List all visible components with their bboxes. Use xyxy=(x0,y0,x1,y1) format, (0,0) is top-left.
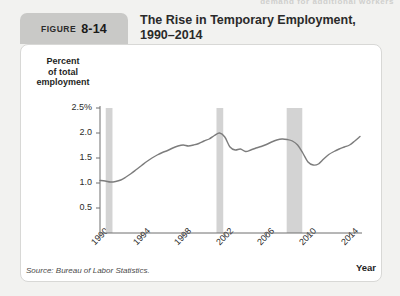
figure-title: The Rise in Temporary Employment, 1990–2… xyxy=(140,13,390,43)
figure-badge-word: FIGURE xyxy=(41,24,76,34)
x-axis-title: Year xyxy=(356,262,376,273)
y-axis-title-line-3: employment xyxy=(26,77,100,88)
figure-badge: FIGURE 8-14 xyxy=(20,13,128,44)
figure-title-line-1: The Rise in Temporary Employment, xyxy=(140,13,390,28)
y-tick-label: 1.0 xyxy=(50,177,92,187)
figure-title-line-2: 1990–2014 xyxy=(140,28,390,43)
y-axis-title-line-1: Percent xyxy=(26,56,100,67)
figure-badge-number: 8-14 xyxy=(81,22,107,36)
y-axis-title-line-2: of total xyxy=(26,67,100,78)
running-head: demand for additional workers xyxy=(260,0,394,5)
y-tick-label: 2.0 xyxy=(50,127,92,137)
y-tick-label: 0.5 xyxy=(50,202,92,212)
y-axis-title: Percent of total employment xyxy=(26,56,100,88)
y-tick-label: 1.5 xyxy=(50,152,92,162)
source-note: Source: Bureau of Labor Statistics. xyxy=(26,266,150,275)
y-tick-label: 2.5% xyxy=(50,102,92,112)
